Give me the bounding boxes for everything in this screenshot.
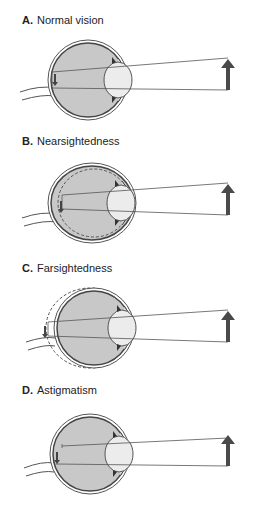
object-arrow	[221, 184, 235, 215]
panel-farsightedness: C.Farsightedness	[0, 250, 255, 370]
panel-normal-vision: A.Normal vision	[0, 0, 255, 125]
eye-icon	[20, 40, 132, 120]
inverted-image-arrow	[42, 326, 48, 338]
eye-icon	[26, 288, 136, 368]
panel-nearsightedness: B.Nearsightedness	[0, 125, 255, 250]
object-arrow	[221, 59, 235, 90]
eye-diagram-nearsighted	[0, 125, 255, 250]
eye-diagram-astigmatism	[0, 370, 255, 507]
eye-icon	[22, 163, 136, 243]
eye-icon	[24, 414, 133, 494]
eye-diagram-farsighted	[0, 250, 255, 370]
object-arrow	[221, 435, 235, 466]
object-arrow	[221, 311, 235, 342]
panel-astigmatism: D.Astigmatism	[0, 370, 255, 507]
eye-diagram-normal	[0, 0, 255, 125]
